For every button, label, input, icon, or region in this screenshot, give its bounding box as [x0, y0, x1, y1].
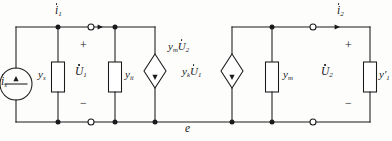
input-current-label: i1	[55, 5, 62, 18]
output-polarity-minus: −	[345, 96, 352, 111]
input-shunt-admittance-label: yii	[125, 69, 134, 82]
port-terminal-output-bottom	[310, 119, 316, 125]
source-admittance-subscript: s	[43, 74, 46, 81]
input-voltage-subscript: 1	[83, 71, 87, 79]
input-current-symbol: i	[55, 5, 58, 17]
dependent-source-ymu2-voltage-symbol: U	[178, 41, 186, 52]
input-voltage-symbol: U	[75, 66, 83, 78]
load-admittance-label: y′1	[379, 69, 390, 82]
port-terminal-input-bottom	[88, 119, 94, 125]
output-current-label: i2	[337, 5, 344, 18]
dependent-source-yku1-label: ykU1	[182, 66, 201, 79]
output-voltage-label: U2	[321, 66, 333, 79]
junction-dot	[113, 25, 118, 30]
output-current-symbol: i	[337, 5, 340, 17]
dependent-source-yku1-diamond	[221, 54, 243, 88]
junction-dot	[270, 25, 275, 30]
input-polarity-minus: −	[80, 96, 87, 111]
junction-dot	[230, 120, 235, 125]
source-admittance-label: ys	[38, 69, 46, 82]
source-admittance-box	[52, 62, 65, 92]
junction-dot	[113, 120, 118, 125]
output-current-subscript: 2	[340, 10, 344, 18]
input-polarity-plus: +	[80, 38, 87, 53]
output-voltage-symbol: U	[321, 66, 329, 78]
input-shunt-admittance-subscript: ii	[130, 74, 134, 81]
junction-dot-group	[56, 25, 275, 125]
dependent-source-ymu2-label: ymU2	[168, 41, 189, 54]
current-source-symbol: i	[1, 76, 4, 88]
dependent-source-yku1-voltage-symbol: U	[190, 66, 198, 77]
current-source-subscript: s	[4, 81, 7, 89]
port-terminal-group	[88, 24, 316, 125]
circuit-diagram: is i1 i2 ys yii U1 U2 ymU2 ykU1 ym y′1 +…	[0, 0, 392, 141]
port-terminal-output-top	[310, 24, 316, 30]
junction-dot	[270, 120, 275, 125]
output-shunt-admittance-box	[266, 62, 279, 92]
dependent-source-yku1-voltage-subscript: 1	[198, 71, 201, 78]
output-shunt-admittance-subscript: m	[288, 74, 293, 81]
port-terminal-input-top	[88, 24, 94, 30]
output-voltage-subscript: 2	[329, 71, 333, 79]
junction-dot	[56, 120, 61, 125]
input-current-subscript: 1	[58, 10, 62, 18]
input-current-arrow	[98, 24, 103, 29]
output-shunt-admittance-label: ym	[283, 69, 293, 82]
output-polarity-plus: +	[345, 38, 352, 53]
ground-rail-label: e	[185, 123, 190, 135]
load-admittance-box	[364, 62, 377, 92]
junction-dot	[56, 25, 61, 30]
input-voltage-label: U1	[75, 66, 87, 79]
input-shunt-admittance-box	[109, 62, 122, 92]
current-source-arrow	[13, 76, 18, 81]
output-current-arrow	[335, 24, 340, 29]
junction-dot	[153, 120, 158, 125]
current-source-label: is	[1, 76, 7, 89]
load-admittance-subscript: 1	[386, 74, 389, 81]
dependent-source-ymu2-voltage-subscript: 2	[186, 46, 189, 53]
dependent-source-ymu2-diamond	[144, 54, 166, 88]
